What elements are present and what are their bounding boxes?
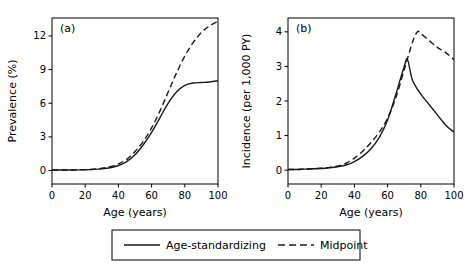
y-tick-label: 2 [276, 96, 282, 107]
panel-a-svg: 020406080100036912 (a) Age (years) Preva… [0, 0, 236, 224]
y-tick-label: 3 [40, 131, 46, 142]
panel-a-letter: (a) [60, 22, 75, 35]
x-tick-label: 0 [285, 190, 291, 201]
legend-label-age-standardizing: Age-standardizing [166, 239, 266, 252]
y-tick-label: 6 [40, 98, 46, 109]
legend-label-midpoint: Midpoint [320, 239, 368, 252]
panel-b-ylabel: Incidence (per 1,000 PY) [240, 34, 253, 169]
panel-b-xlabel: Age (years) [339, 206, 403, 219]
x-tick-label: 80 [178, 190, 191, 201]
y-tick-label: 12 [33, 30, 46, 41]
x-tick-label: 40 [348, 190, 361, 201]
y-tick-label: 3 [276, 61, 282, 72]
panel-b-svg: 02040608010001234 (b) Age (years) Incide… [236, 0, 472, 224]
x-tick-label: 0 [49, 190, 55, 201]
legend-svg: Age-standardizing Midpoint [0, 224, 472, 270]
x-tick-label: 20 [79, 190, 92, 201]
panel-b-letter: (b) [296, 22, 312, 35]
x-tick-label: 100 [208, 190, 227, 201]
panel-a-ylabel: Prevalence (%) [6, 60, 19, 143]
x-tick-label: 80 [414, 190, 427, 201]
x-tick-label: 100 [444, 190, 463, 201]
y-tick-label: 1 [276, 130, 282, 141]
figure: 020406080100036912 (a) Age (years) Preva… [0, 0, 472, 270]
x-tick-label: 60 [145, 190, 158, 201]
x-tick-label: 60 [381, 190, 394, 201]
x-tick-label: 20 [315, 190, 328, 201]
x-tick-label: 40 [112, 190, 125, 201]
y-tick-label: 0 [40, 165, 46, 176]
panel-a-xlabel: Age (years) [103, 206, 167, 219]
y-tick-label: 0 [276, 165, 282, 176]
y-tick-label: 4 [276, 26, 282, 37]
chart-legend: Age-standardizing Midpoint [0, 224, 472, 270]
y-tick-label: 9 [40, 64, 46, 75]
panel-b-plot-frame [288, 18, 454, 184]
